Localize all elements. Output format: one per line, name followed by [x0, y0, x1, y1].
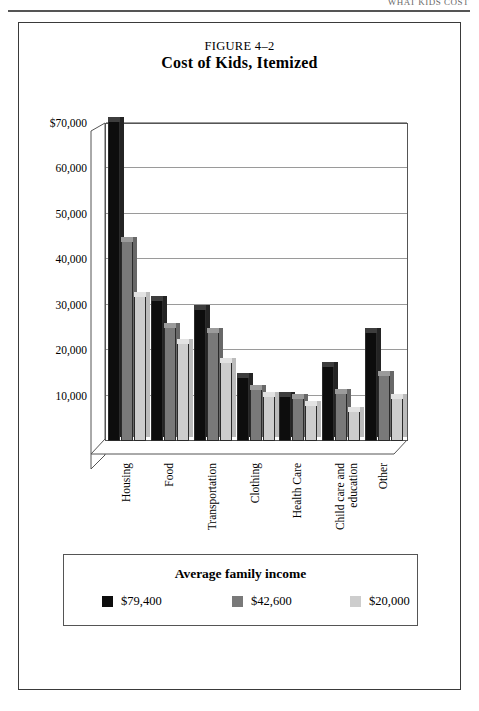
x-axis-category-label: Transportation	[206, 463, 219, 530]
bar	[322, 366, 334, 441]
bar-top-cap	[305, 401, 317, 406]
bar-top-cap	[121, 237, 133, 242]
y-axis-tick-labels: $70,00060,00050,00040,00030,00020,00010,…	[31, 83, 87, 483]
bar-top-cap	[220, 358, 232, 363]
bar	[108, 121, 120, 441]
bar-top-cap	[322, 362, 334, 367]
x-axis-category-label: Clothing	[249, 463, 262, 503]
bar-top-cap	[237, 373, 249, 378]
legend-title: Average family income	[64, 566, 417, 582]
bar	[207, 332, 219, 441]
bar	[305, 405, 317, 441]
bar	[164, 327, 176, 441]
bar	[263, 396, 275, 441]
bar-face	[263, 396, 275, 441]
bar-face	[108, 121, 120, 441]
legend-swatch	[102, 596, 113, 607]
bar-top-cap	[108, 117, 120, 122]
bar	[237, 377, 249, 441]
bar-series-container	[106, 123, 407, 441]
y-axis-tick-label: 20,000	[31, 345, 87, 357]
y-axis-tick-label: 50,000	[31, 209, 87, 221]
bar-group	[194, 123, 237, 441]
bar-group	[322, 123, 365, 441]
y-axis-tick-label: $70,000	[31, 118, 87, 130]
bar-face	[279, 396, 291, 441]
x-axis-category-label: Child care and education	[334, 463, 359, 549]
bar-face	[194, 309, 206, 441]
bar	[335, 393, 347, 441]
bar	[151, 300, 163, 441]
header-rule	[8, 10, 470, 12]
x-axis-category-label: Other	[377, 463, 390, 489]
y-axis-tick-label: 40,000	[31, 254, 87, 266]
x-axis-category-label: Food	[163, 463, 176, 487]
bar-top-cap	[378, 371, 390, 376]
bar-top-cap	[207, 328, 219, 333]
bar	[121, 241, 133, 441]
bar-face	[292, 398, 304, 441]
legend-item: $20,000	[350, 593, 410, 609]
bar-top-cap	[250, 385, 262, 390]
bar-face	[335, 393, 347, 441]
bar-top-cap	[151, 296, 163, 301]
bar-group	[151, 123, 194, 441]
bar	[177, 343, 189, 441]
bar-top-cap	[292, 394, 304, 399]
plot-area	[91, 123, 408, 455]
bar-face	[164, 327, 176, 441]
bar	[378, 375, 390, 441]
bar-group	[237, 123, 280, 441]
bar-face	[391, 398, 403, 441]
y-axis-tick-label: 10,000	[31, 391, 87, 403]
running-head-text: WHAT KIDS COST	[388, 0, 469, 6]
plot-left-wall	[91, 123, 106, 469]
page-running-header: WHAT KIDS COST	[0, 0, 479, 16]
bar-face	[305, 405, 317, 441]
figure-frame: FIGURE 4–2 Cost of Kids, Itemized $70,00…	[18, 22, 461, 690]
legend-item: $79,400	[102, 593, 162, 609]
bar-top-cap	[391, 394, 403, 399]
bar-face	[322, 366, 334, 441]
bar	[348, 411, 360, 441]
legend-item: $42,600	[232, 593, 292, 609]
x-axis-category-label: Housing	[120, 463, 133, 502]
plot-floor	[91, 439, 409, 455]
figure-title: Cost of Kids, Itemized	[19, 54, 460, 72]
bar-top-cap	[335, 389, 347, 394]
x-axis-category-label: Health Care	[291, 463, 304, 518]
bar	[391, 398, 403, 441]
legend-label: $20,000	[369, 594, 410, 609]
bar	[365, 332, 377, 441]
bar-face	[151, 300, 163, 441]
y-axis-tick-label: 60,000	[31, 163, 87, 175]
bar-chart: $70,00060,00050,00040,00030,00020,00010,…	[19, 83, 460, 543]
bar	[134, 296, 146, 441]
bar	[250, 389, 262, 441]
bar-top-cap	[177, 339, 189, 344]
bar-top-cap	[365, 328, 377, 333]
figure-number: FIGURE 4–2	[19, 39, 460, 54]
bar-group	[365, 123, 408, 441]
bar-group	[108, 123, 151, 441]
bar-group	[279, 123, 322, 441]
legend-label: $42,600	[251, 594, 292, 609]
bar-face	[177, 343, 189, 441]
legend-swatch	[232, 596, 243, 607]
bar-face	[348, 411, 360, 441]
bar-face	[134, 296, 146, 441]
bar-top-cap	[164, 323, 176, 328]
legend-swatch	[350, 596, 361, 607]
bar-face	[207, 332, 219, 441]
bar-top-cap	[263, 392, 275, 397]
bar-top-cap	[279, 392, 291, 397]
x-axis-category-labels: HousingFoodTransportationClothingHealth …	[91, 463, 411, 563]
bar	[220, 362, 232, 442]
legend-label: $79,400	[121, 594, 162, 609]
bar-top-cap	[348, 407, 360, 412]
bar	[279, 396, 291, 441]
bar	[292, 398, 304, 441]
bar-face	[250, 389, 262, 441]
bar-face	[378, 375, 390, 441]
bar-face	[365, 332, 377, 441]
